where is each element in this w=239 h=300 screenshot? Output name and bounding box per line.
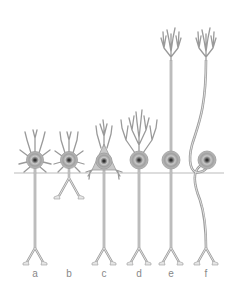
label-f: f	[199, 268, 213, 279]
neuron-diagram	[0, 0, 239, 300]
neuron-e	[159, 28, 183, 265]
label-d: d	[132, 268, 146, 279]
label-a: a	[28, 268, 42, 279]
neuron-a	[19, 130, 51, 265]
neuron-c	[86, 120, 122, 265]
label-c: c	[97, 268, 111, 279]
neuron-f	[190, 28, 218, 265]
label-e: e	[164, 268, 178, 279]
neuron-b	[54, 132, 84, 199]
label-b: b	[62, 268, 76, 279]
neuron-d	[121, 110, 157, 265]
